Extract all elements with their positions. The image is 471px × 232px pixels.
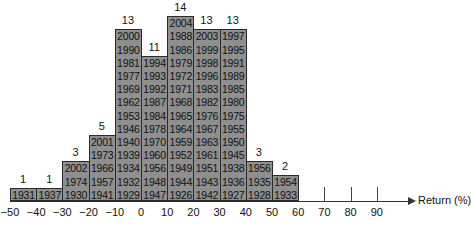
year-label: 1984 [142,110,167,123]
year-label: 1989 [221,70,246,83]
year-label: 1967 [194,123,219,136]
year-label: 1942 [194,189,219,202]
year-label: 1955 [221,123,246,136]
year-label: 1968 [168,96,193,109]
year-label: 1943 [194,176,219,189]
histogram-bar: 1931 [10,188,37,201]
year-label: 1994 [142,57,167,70]
histogram-bar: 1997199519911989198519801975195519501945… [220,29,247,201]
year-label: 1997 [221,30,246,43]
year-label: 1974 [63,176,88,189]
year-label: 1939 [116,149,141,162]
year-label: 1959 [168,136,193,149]
year-label: 1933 [273,189,298,202]
histogram-bar: 19541933 [272,175,299,201]
year-label: 1951 [194,162,219,175]
year-label: 1969 [116,83,141,96]
year-label: 1948 [142,176,167,189]
year-label: 1941 [90,189,115,202]
year-label: 1977 [116,70,141,83]
year-label: 1953 [116,110,141,123]
year-label: 1966 [90,162,115,175]
bin-count-label: 14 [167,1,193,13]
year-label: 1981 [116,57,141,70]
x-axis-title: Return (%) [418,194,471,206]
year-label: 1971 [168,83,193,96]
bin-count-label: 1 [10,173,36,185]
year-label: 1992 [142,83,167,96]
x-tick-mark [351,187,352,201]
year-label: 1980 [221,96,246,109]
year-label: 1964 [168,123,193,136]
year-label: 1934 [116,162,141,175]
year-label: 1944 [168,176,193,189]
year-label: 1931 [11,189,36,202]
year-label: 1970 [142,136,167,149]
year-label: 1937 [37,189,62,202]
year-label: 1945 [221,149,246,162]
x-axis-line [10,201,410,202]
histogram-bar: 195619351928 [246,161,273,201]
histogram-bar: 2004198819861979197219711968196519641959… [167,16,194,201]
year-label: 1927 [221,189,246,202]
bin-count-label: 13 [115,14,141,26]
year-label: 1965 [168,110,193,123]
histogram-bar: 1994199319921987198419781970196019561948… [141,56,168,201]
bin-count-label: 2 [272,160,298,172]
year-label: 1960 [142,149,167,162]
histogram-bar: 2003199919981996198319821976196719631961… [193,29,220,201]
x-tick-label: 90 [362,206,392,218]
year-label: 1936 [221,176,246,189]
year-label: 1978 [142,123,167,136]
year-label: 1926 [168,189,193,202]
year-label: 1947 [142,189,167,202]
year-label: 1956 [247,162,272,175]
year-label: 1932 [116,176,141,189]
year-label: 1988 [168,30,193,43]
year-label: 2002 [63,162,88,175]
year-label: 1956 [142,162,167,175]
year-label: 1996 [194,70,219,83]
year-label: 1991 [221,57,246,70]
year-label: 1999 [194,44,219,57]
year-label: 1940 [116,136,141,149]
year-label: 1938 [221,162,246,175]
year-label: 1946 [116,123,141,136]
year-label: 2004 [168,17,193,30]
x-tick-mark [324,187,325,201]
year-label: 1993 [142,70,167,83]
bin-count-label: 1 [36,173,62,185]
year-label: 1990 [116,44,141,57]
year-label: 1973 [90,149,115,162]
histogram-bar: 200219741930 [62,161,89,201]
year-label: 2000 [116,30,141,43]
year-label: 1935 [247,176,272,189]
year-label: 1952 [168,149,193,162]
bin-count-label: 13 [193,14,219,26]
year-label: 1982 [194,96,219,109]
bin-count-label: 3 [246,146,272,158]
year-label: 1929 [116,189,141,202]
year-label: 1928 [247,189,272,202]
year-label: 2003 [194,30,219,43]
year-label: 2001 [90,136,115,149]
bin-count-label: 13 [220,14,246,26]
year-label: 1976 [194,110,219,123]
year-label: 1972 [168,70,193,83]
year-label: 1950 [221,136,246,149]
year-label: 1986 [168,44,193,57]
histogram-bar: 1937 [36,188,63,201]
year-label: 1979 [168,57,193,70]
year-label: 1987 [142,96,167,109]
year-label: 1949 [168,162,193,175]
year-label: 1995 [221,44,246,57]
bin-count-label: 5 [89,120,115,132]
year-label: 1985 [221,83,246,96]
year-label: 1962 [116,96,141,109]
histogram-bar: 2000199019811977196919621953194619401939… [115,29,142,201]
year-label: 1963 [194,136,219,149]
x-axis-arrow-icon [408,197,416,205]
bin-count-label: 3 [62,146,88,158]
year-label: 1983 [194,83,219,96]
